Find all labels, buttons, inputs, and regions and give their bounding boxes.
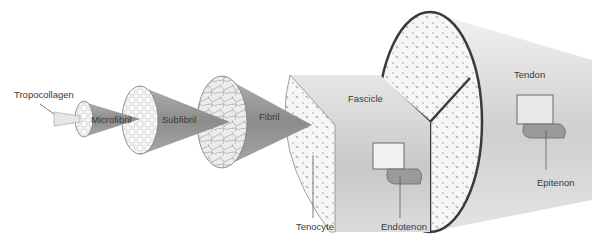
tropocollagen [40,104,80,126]
endotenon-flap [387,169,422,184]
epitenon-flap [523,124,565,138]
label-subfibril: Subfibril [162,114,196,125]
endotenon-window [373,143,404,169]
epitenon-window [517,95,553,124]
label-microfibril: Microfibril [91,114,132,125]
tropocollagen-leader [40,104,54,114]
label-fascicle: Fascicle [348,93,383,104]
label-endotenon: Endotenon [381,221,427,232]
label-tenocyte: Tenocyte [296,221,334,232]
label-fibril: Fibril [259,111,280,122]
label-tropocollagen: Tropocollagen [14,89,74,100]
tendon-structure-diagram: Tropocollagen Microfibril Subfibril Fibr… [0,0,592,239]
label-epitenon: Epitenon [537,177,575,188]
label-tendon: Tendon [514,69,545,80]
